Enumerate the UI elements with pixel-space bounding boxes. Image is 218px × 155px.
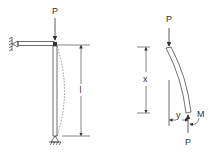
segment-right-edge [171, 47, 191, 112]
pin-support-icon [49, 136, 61, 145]
bottom-load-label: P [185, 137, 191, 147]
column [53, 46, 57, 136]
pin-joint [53, 42, 57, 46]
left-figure: P l [9, 6, 90, 145]
column-buckling-diagram: P l P [0, 0, 218, 155]
y-label: y [176, 110, 181, 120]
buckled-shape [57, 46, 65, 136]
moment-label: M [197, 109, 205, 119]
load-label: P [52, 6, 58, 16]
right-figure: P x y P M [137, 14, 205, 147]
horizontal-strut [18, 42, 54, 46]
wall-support-icon [9, 37, 18, 51]
length-label: l [80, 85, 82, 95]
x-label: x [143, 74, 148, 84]
top-load-label: P [166, 14, 172, 24]
